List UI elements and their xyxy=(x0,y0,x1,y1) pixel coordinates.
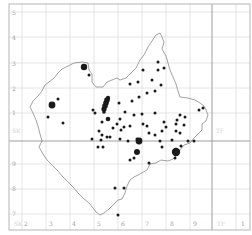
record-dot xyxy=(91,138,94,141)
record-dot xyxy=(102,146,105,149)
record-dot xyxy=(106,117,111,122)
y-axis-label: 8 xyxy=(12,185,16,192)
x-axis-label: 5 xyxy=(97,220,101,227)
record-dot xyxy=(193,140,196,143)
record-dot xyxy=(146,125,149,128)
record-dot xyxy=(159,140,162,143)
y-axis-label: 5 xyxy=(12,9,16,16)
record-dot xyxy=(184,116,187,119)
record-dot xyxy=(202,107,205,110)
record-dot xyxy=(129,159,132,162)
record-dot xyxy=(179,132,182,135)
record-dot xyxy=(176,119,179,122)
record-dot xyxy=(129,83,132,86)
record-dot xyxy=(100,139,103,142)
record-dot xyxy=(154,90,157,93)
record-dot xyxy=(157,61,160,64)
record-dot xyxy=(172,148,180,156)
record-dot xyxy=(94,112,97,115)
record-dot xyxy=(106,136,109,139)
record-dot xyxy=(198,109,201,112)
record-dot xyxy=(137,81,140,84)
record-dot xyxy=(101,121,104,124)
record-dot xyxy=(148,132,151,135)
record-dot xyxy=(138,96,141,99)
record-dot xyxy=(101,134,104,137)
map-background xyxy=(0,0,252,235)
record-dot xyxy=(163,67,166,70)
x-axis-label: 4 xyxy=(72,220,76,227)
record-dot xyxy=(129,125,132,128)
record-dot xyxy=(148,162,151,165)
record-dot xyxy=(142,123,145,126)
record-dot xyxy=(119,118,122,121)
record-dot xyxy=(124,111,127,114)
record-dot xyxy=(109,136,112,139)
record-dot xyxy=(142,69,145,72)
record-dot xyxy=(133,157,136,160)
y-axis-label: 9 xyxy=(12,160,16,167)
y-axis-label: 2 xyxy=(12,85,16,92)
record-dot xyxy=(165,126,168,129)
distribution-map: 54321987SK 234567891SKTFTF xyxy=(0,0,252,235)
record-dot xyxy=(98,130,101,133)
record-dot xyxy=(119,138,122,141)
grid-square-label: SK xyxy=(12,127,21,134)
record-dot xyxy=(141,113,144,116)
record-dot xyxy=(133,114,136,117)
x-axis-label: 6 xyxy=(121,220,125,227)
record-dot xyxy=(179,114,182,117)
y-axis-label: 1 xyxy=(12,109,16,116)
record-dot xyxy=(123,126,126,129)
record-dot xyxy=(118,102,121,105)
record-dot xyxy=(114,187,117,190)
record-dot xyxy=(174,157,177,160)
grid-square-label: TF xyxy=(216,127,224,134)
record-dot xyxy=(47,116,50,119)
record-dot xyxy=(117,214,120,217)
record-dot xyxy=(151,79,154,82)
x-axis-label: 9 xyxy=(193,220,197,227)
record-dot xyxy=(161,130,164,133)
record-dot xyxy=(175,123,178,126)
record-dot xyxy=(180,145,183,148)
record-dot xyxy=(116,123,119,126)
record-dot xyxy=(92,109,95,112)
record-dot xyxy=(102,110,106,114)
record-dot xyxy=(120,129,123,132)
record-dot xyxy=(136,138,143,145)
record-dot xyxy=(161,146,164,149)
record-dot xyxy=(123,187,126,190)
record-dot xyxy=(57,98,60,101)
record-dot xyxy=(157,69,160,72)
record-dot xyxy=(175,130,178,133)
record-dot xyxy=(154,112,157,115)
record-dot xyxy=(134,149,140,155)
grid-square-label: SK xyxy=(14,220,23,227)
x-axis-label: 7 xyxy=(145,220,149,227)
x-axis-label: 3 xyxy=(49,220,53,227)
record-dot xyxy=(97,146,100,149)
record-dot xyxy=(187,140,190,143)
grid-square-label: TF xyxy=(217,220,225,227)
record-dot xyxy=(62,122,65,125)
x-axis-label: 1 xyxy=(241,220,245,227)
record-dot xyxy=(106,96,110,100)
record-dot xyxy=(127,140,130,143)
record-dot xyxy=(88,74,91,77)
y-axis-label: 4 xyxy=(12,34,16,41)
record-dot xyxy=(183,124,186,127)
record-dot xyxy=(49,102,56,109)
y-axis-label: 3 xyxy=(12,60,16,67)
x-axis-label: 2 xyxy=(24,220,28,227)
record-dot xyxy=(112,127,115,130)
record-dot xyxy=(154,134,157,137)
record-dot xyxy=(146,92,149,95)
record-dot xyxy=(171,139,174,142)
record-dot xyxy=(81,64,87,70)
record-dot xyxy=(163,121,166,124)
y-axis-label: 7 xyxy=(12,210,16,217)
x-axis-label: 8 xyxy=(170,220,174,227)
record-dot xyxy=(131,100,134,103)
record-dot xyxy=(160,84,163,87)
